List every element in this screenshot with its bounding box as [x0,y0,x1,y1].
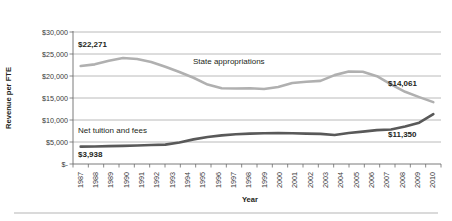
x-tick-label: 2001 [290,172,299,188]
x-axis-tickmarks [73,164,441,168]
x-tick-label: 1999 [260,172,269,188]
x-tick-label: 2003 [321,172,330,188]
x-tick-label: 2009 [413,172,422,188]
y-tick-label: $25,000 [42,50,68,59]
x-tick-label: 1989 [106,172,115,188]
tuition-end-value-label: $11,350 [388,130,417,139]
x-tick-label: 2004 [336,172,345,188]
x-tick-label: 1997 [229,172,238,188]
y-tick-label: $5,000 [46,138,68,147]
x-tick-label: 1991 [137,172,146,188]
y-tick-label: $20,000 [42,72,68,81]
x-axis-title: Year [242,195,258,204]
x-tick-label: 1992 [152,172,161,188]
state-start-value-label: $22,271 [78,40,107,49]
y-axis-title: Revenue per FTE [4,67,13,129]
x-tick-label: 2000 [275,172,284,188]
y-tick-label: $- [62,160,69,169]
x-tick-label: 1996 [214,172,223,188]
net-tuition-series-label: Net tuition and fees [78,126,147,135]
x-tick-label: 1990 [122,172,131,188]
x-tick-label: 1987 [76,172,85,188]
x-tick-label: 2010 [428,172,437,188]
x-tick-label: 2007 [382,172,391,188]
x-tick-label: 1988 [91,172,100,188]
y-tick-label: $30,000 [42,28,68,37]
x-tick-label: 1998 [244,172,253,188]
x-tick-label: 2008 [398,172,407,188]
line-chart: Revenue per FTE $30,000 $25,000 $20,000 … [0,0,452,221]
state-appropriations-series-label: State appropriations [193,57,265,66]
x-tick-label: 2005 [352,172,361,188]
tuition-start-value-label: $3,938 [78,150,103,159]
x-tick-label: 2002 [306,172,315,188]
chart-container: Revenue per FTE $30,000 $25,000 $20,000 … [0,0,452,221]
x-tick-label: 1995 [198,172,207,188]
x-tick-label: 1993 [168,172,177,188]
x-axis-tick-labels: 1987198819891990199119921993199419951996… [76,172,438,188]
y-axis-tickmarks [70,32,74,164]
x-tick-label: 2006 [367,172,376,188]
y-axis-tick-labels: $30,000 $25,000 $20,000 $15,000 $10,000 … [42,28,69,169]
y-tick-label: $10,000 [42,116,68,125]
y-tick-label: $15,000 [42,94,68,103]
state-end-value-label: $14,061 [388,79,417,88]
x-tick-label: 1994 [183,172,192,188]
